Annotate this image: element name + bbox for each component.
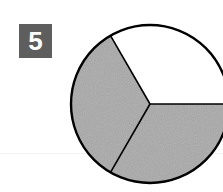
fraction-circle-diagram <box>0 0 223 192</box>
